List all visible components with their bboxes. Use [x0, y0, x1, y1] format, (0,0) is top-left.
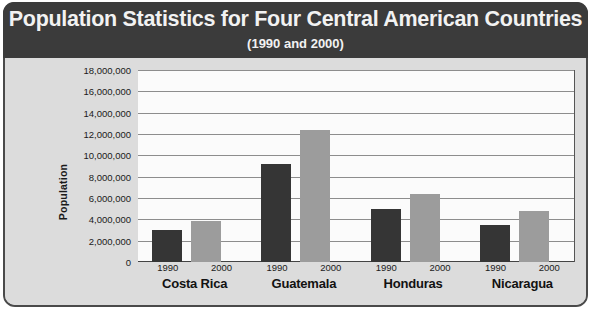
population-bar-chart-figure: Population Statistics for Four Central A… [0, 0, 591, 312]
chart-title: Population Statistics for Four Central A… [3, 9, 588, 31]
bar-group [144, 70, 241, 262]
bar-costa-rica-1990 [152, 230, 182, 262]
chart-panel: Population 18,000,00016,000,00014,000,00… [5, 58, 586, 305]
bar-honduras-1990 [371, 209, 401, 262]
bar-costa-rica-2000 [191, 221, 221, 262]
x-axis-year-labels: 19902000 [480, 263, 565, 273]
chart-title-bar: Population Statistics for Four Central A… [3, 2, 588, 58]
x-axis-group: 19902000Guatemala [261, 263, 346, 291]
plot-area: 18,000,00016,000,00014,000,00012,000,000… [138, 70, 575, 262]
bar-group [253, 70, 350, 262]
x-axis-year-label: 1990 [157, 263, 178, 273]
x-axis-country-label: Guatemala [261, 276, 346, 291]
bar-honduras-2000 [410, 194, 440, 262]
x-axis-year-label: 2000 [320, 263, 341, 273]
bar-nicaragua-2000 [519, 211, 549, 262]
x-axis-year-label: 1990 [266, 263, 287, 273]
y-axis-tick-label: 14,000,000 [83, 107, 131, 118]
y-axis-title: Population [57, 132, 69, 252]
x-axis-year-label: 2000 [429, 263, 450, 273]
y-axis-tick-label: 2,000,000 [89, 235, 131, 246]
x-axis-year-labels: 19902000 [152, 263, 237, 273]
x-axis-year-labels: 19902000 [371, 263, 456, 273]
x-axis-labels: 19902000Costa Rica19902000Guatemala19902… [138, 263, 575, 303]
x-axis-year-labels: 19902000 [261, 263, 346, 273]
x-axis-year-label: 1990 [485, 263, 506, 273]
y-axis-tick-label: 6,000,000 [89, 193, 131, 204]
bar-group [363, 70, 460, 262]
bar-guatemala-1990 [261, 164, 291, 262]
x-axis-year-label: 2000 [211, 263, 232, 273]
x-axis-year-label: 1990 [376, 263, 397, 273]
bar-group [472, 70, 569, 262]
chart-subtitle: (1990 and 2000) [3, 37, 588, 50]
y-axis-tick-label: 18,000,000 [83, 65, 131, 76]
x-axis-year-label: 2000 [539, 263, 560, 273]
y-axis-tick-label: 4,000,000 [89, 214, 131, 225]
bar-guatemala-2000 [300, 130, 330, 262]
x-axis-country-label: Nicaragua [480, 276, 565, 291]
x-axis-group: 19902000Honduras [371, 263, 456, 291]
y-axis-tick-label: 12,000,000 [83, 129, 131, 140]
x-axis-country-label: Honduras [371, 276, 456, 291]
y-axis-tick-label: 8,000,000 [89, 171, 131, 182]
x-axis-group: 19902000Costa Rica [152, 263, 237, 291]
bar-nicaragua-1990 [480, 225, 510, 262]
y-axis-tick-label: 0 [126, 257, 131, 268]
y-axis-tick-label: 10,000,000 [83, 150, 131, 161]
y-axis-tick-label: 16,000,000 [83, 86, 131, 97]
x-axis-group: 19902000Nicaragua [480, 263, 565, 291]
x-axis-country-label: Costa Rica [152, 276, 237, 291]
